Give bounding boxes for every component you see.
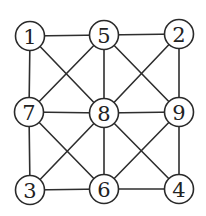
node-label: 7 (22, 101, 35, 125)
edge-1-8 (30, 36, 104, 113)
node-3: 3 (16, 176, 45, 205)
node-label: 8 (97, 102, 110, 126)
node-label: 5 (97, 24, 110, 48)
node-label: 6 (97, 178, 110, 202)
node-5: 5 (90, 21, 119, 50)
graph-diagram: 152789364 (0, 0, 206, 216)
node-8: 8 (90, 99, 119, 128)
node-6: 6 (90, 175, 119, 204)
node-2: 2 (165, 20, 194, 49)
node-1: 1 (16, 22, 45, 51)
node-label: 1 (23, 25, 36, 49)
node-label: 9 (172, 101, 185, 125)
node-4: 4 (165, 175, 194, 204)
node-9: 9 (165, 98, 194, 127)
node-7: 7 (15, 98, 44, 127)
node-label: 3 (23, 179, 36, 203)
node-label: 2 (172, 23, 185, 47)
edge-7-6 (29, 112, 104, 189)
node-label: 4 (172, 178, 185, 202)
